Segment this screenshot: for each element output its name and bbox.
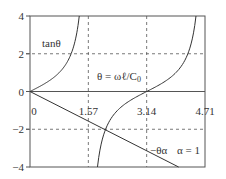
theta-equation-label: θ = ωℓ/C0 [97, 70, 141, 84]
x-tick-label: 0 [31, 105, 37, 117]
x-tick-label: 3.14 [137, 105, 157, 117]
y-tick-label: 4 [19, 10, 25, 22]
y-tick-label: 0 [19, 86, 25, 98]
theta-equation-subscript: 0 [137, 75, 141, 84]
x-tick-label: 4.71 [195, 105, 214, 117]
tan-theta-chart: 420−2−401.573.144.71 tanθ θ = ωℓ/C0 −θα … [0, 0, 226, 179]
tan-theta-branch-1 [30, 16, 79, 91]
y-tick-label: −4 [12, 161, 24, 173]
x-tick-label: 1.57 [79, 105, 99, 117]
y-tick-label: 2 [19, 48, 25, 60]
tan-theta-label: tanθ [42, 37, 61, 49]
minus-theta-alpha-label: −θα [150, 144, 167, 156]
theta-equation-main: θ = ωℓ/C [97, 70, 137, 82]
y-tick-label: −2 [12, 123, 24, 135]
alpha-value-label: α = 1 [177, 144, 200, 156]
